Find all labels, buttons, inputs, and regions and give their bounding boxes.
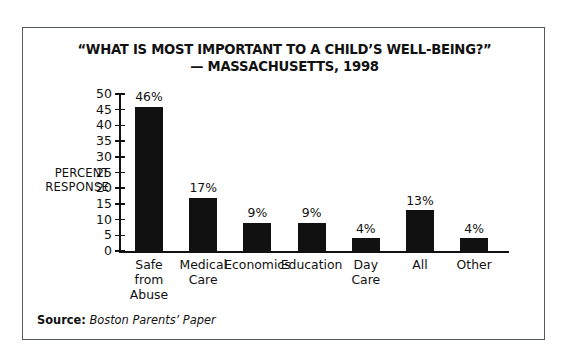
bar-value-label: 17% [189,182,217,194]
y-tick-label: 5 [104,229,112,242]
y-tick-mark [115,156,125,158]
bar-group[interactable]: 17%MedicalCare [180,90,226,251]
x-axis-category-line: Care [351,272,380,287]
bar-group[interactable]: 46%SafefromAbuse [126,90,172,251]
bar-value-label: 9% [302,207,322,219]
bar-group[interactable]: 13%All [397,90,443,251]
bar-value-label: 4% [464,223,484,235]
y-tick-mark [115,140,125,142]
bar[interactable] [243,223,271,251]
chart-title-line-1: “WHAT IS MOST IMPORTANT TO A CHILD’S WEL… [23,41,546,58]
y-tick-label: 0 [104,245,112,258]
y-tick-label: 25 [96,166,112,179]
y-tick-mark [115,93,125,95]
source-note: Source: Boston Parents’ Paper [37,313,216,327]
x-axis-category-label: DayCare [351,257,380,287]
y-tick-mark [115,250,125,252]
bar-group[interactable]: 9%Economics [234,90,280,251]
y-tick-mark [115,172,125,174]
y-tick-label: 20 [96,182,112,195]
bar[interactable] [406,210,434,251]
y-tick-mark [115,125,125,127]
x-axis-category-line: Day [351,257,380,272]
y-tick-mark [115,203,125,205]
x-axis-category-label: MedicalCare [179,257,226,287]
y-tick-label: 15 [96,198,112,211]
x-axis-category-line: Education [281,257,343,272]
y-tick-label: 10 [96,213,112,226]
chart-figure: “WHAT IS MOST IMPORTANT TO A CHILD’S WEL… [0,0,566,355]
x-axis-category-line: Abuse [130,287,168,302]
plot-area: PERCENT RESPONSE 50454035302520151050 46… [119,88,509,253]
bar-value-label: 46% [135,91,163,103]
y-tick-label: 45 [96,103,112,116]
x-axis-category-line: Medical [179,257,226,272]
x-axis-category-label: Other [457,257,492,272]
chart-frame: “WHAT IS MOST IMPORTANT TO A CHILD’S WEL… [22,27,545,340]
x-axis-category-line: Other [457,257,492,272]
bar-group[interactable]: 4%Other [451,90,497,251]
bar-group[interactable]: 4%DayCare [343,90,389,251]
y-tick-mark [115,187,125,189]
y-tick-mark [115,235,125,237]
x-axis-category-line: from [130,272,168,287]
source-text: Boston Parents’ Paper [89,313,215,327]
x-axis-category-label: SafefromAbuse [130,257,168,302]
bar-value-label: 9% [248,207,268,219]
x-axis-category-line: All [412,257,427,272]
y-tick-label: 30 [96,151,112,164]
bar-group[interactable]: 9%Education [289,90,335,251]
y-tick-mark [115,109,125,111]
x-axis-category-label: All [412,257,427,272]
x-axis-line [119,251,509,253]
x-axis-category-line: Safe [130,257,168,272]
y-tick-label: 40 [96,119,112,132]
bar[interactable] [352,238,380,251]
x-axis-category-label: Education [281,257,343,272]
source-label: Source: [37,313,86,327]
chart-title-line-2: — MASSACHUSETTS, 1998 [23,58,546,75]
y-tick-mark [115,219,125,221]
bar[interactable] [189,198,217,251]
bar[interactable] [135,107,163,251]
y-tick-label: 50 [96,88,112,101]
chart-title: “WHAT IS MOST IMPORTANT TO A CHILD’S WEL… [23,41,546,75]
bar-value-label: 13% [406,195,434,207]
x-axis-category-line: Care [179,272,226,287]
y-tick-label: 35 [96,135,112,148]
bar-value-label: 4% [356,223,376,235]
bar[interactable] [460,238,488,251]
bar[interactable] [298,223,326,251]
